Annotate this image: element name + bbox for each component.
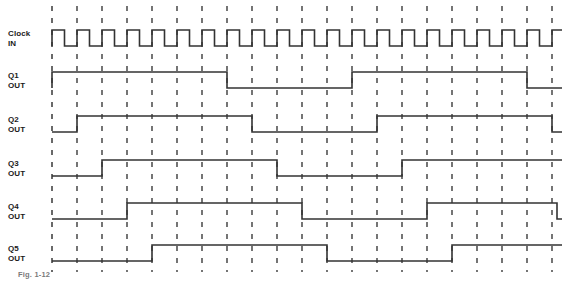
- signal-label-q3: Q3OUT: [8, 159, 25, 178]
- waveform-canvas: [0, 0, 575, 281]
- waveform-trace-clock: [52, 30, 562, 46]
- signal-label-line1: Clock: [8, 29, 30, 38]
- signal-label-line2: OUT: [8, 125, 25, 135]
- signal-label-q5: Q5OUT: [8, 244, 25, 263]
- signal-label-line1: Q2: [8, 115, 19, 124]
- signal-label-line2: OUT: [8, 81, 25, 91]
- signal-label-line2: OUT: [8, 169, 25, 179]
- waveform-trace-q4: [52, 203, 562, 219]
- signal-label-line2: IN: [8, 39, 30, 49]
- signal-label-line1: Q1: [8, 71, 19, 80]
- waveform-trace-q5: [52, 245, 562, 261]
- signal-label-q4: Q4OUT: [8, 202, 25, 221]
- waveform-trace-q1: [52, 72, 562, 88]
- timing-diagram-figure: ClockINQ1OUTQ2OUTQ3OUTQ4OUTQ5OUT Fig. 1-…: [0, 0, 575, 281]
- signal-label-line1: Q4: [8, 202, 19, 211]
- signal-label-line1: Q3: [8, 159, 19, 168]
- figure-caption: Fig. 1-12: [18, 270, 50, 279]
- signal-label-q1: Q1OUT: [8, 71, 25, 90]
- signal-label-line2: OUT: [8, 254, 25, 264]
- waveform-trace-q2: [52, 116, 562, 132]
- waveform-trace-q3: [52, 160, 562, 176]
- signal-label-line2: OUT: [8, 212, 25, 222]
- signal-label-clock: ClockIN: [8, 29, 30, 48]
- signal-label-line1: Q5: [8, 244, 19, 253]
- signal-label-q2: Q2OUT: [8, 115, 25, 134]
